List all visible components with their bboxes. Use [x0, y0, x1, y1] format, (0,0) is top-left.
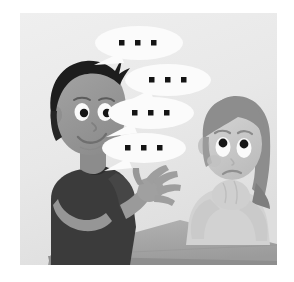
cartoon-illustration: ... ... [20, 13, 277, 265]
girl-left-cheek [207, 155, 221, 167]
girl-right-pupil [240, 140, 249, 149]
screenshot-canvas: ... ... [0, 0, 294, 282]
boy-left-pupil [80, 109, 88, 117]
scene-svg: ... ... [20, 13, 277, 265]
girl-left-pupil [219, 139, 228, 148]
